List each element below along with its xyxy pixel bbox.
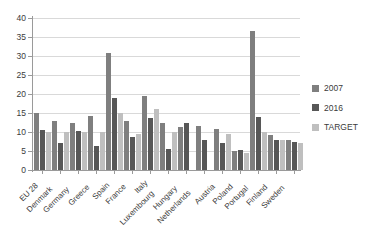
- bar-group: [195, 18, 213, 170]
- y-tick-label: 5: [4, 147, 26, 156]
- bar-group: [249, 18, 267, 170]
- bar: [130, 137, 135, 170]
- bar: [94, 146, 99, 170]
- bar: [160, 123, 165, 171]
- bar: [34, 113, 39, 170]
- bar-group: [213, 18, 231, 170]
- x-axis-tick-labels: EU 28DenmarkGermanyGreeceSpainFranceItal…: [33, 172, 300, 230]
- y-tick-label: 0: [4, 166, 26, 175]
- bar: [268, 135, 273, 170]
- bar: [232, 151, 237, 170]
- y-tick-label: 15: [4, 109, 26, 118]
- bar-group: [177, 18, 195, 170]
- bar: [52, 121, 57, 170]
- bar-group: [231, 18, 249, 170]
- bar: [142, 96, 147, 170]
- y-tick-label: 35: [4, 33, 26, 42]
- bar: [46, 132, 51, 170]
- bar-group: [33, 18, 51, 170]
- bar: [76, 131, 81, 170]
- bar-group: [159, 18, 177, 170]
- bar: [124, 121, 129, 170]
- bar-group: [285, 18, 303, 170]
- y-tick-label: 10: [4, 128, 26, 137]
- bar-group: [51, 18, 69, 170]
- bar-group: [123, 18, 141, 170]
- bar: [154, 109, 159, 170]
- y-tick-mark: [28, 170, 33, 171]
- bar: [286, 140, 291, 170]
- legend-swatch-icon: [312, 85, 319, 92]
- bar: [292, 142, 297, 170]
- x-label-cell: Sweden: [282, 172, 300, 230]
- bar: [112, 98, 117, 170]
- bar: [166, 149, 171, 170]
- legend-swatch-icon: [312, 124, 319, 131]
- bar: [250, 31, 255, 170]
- legend-label: 2016: [324, 104, 343, 113]
- bar-group: [69, 18, 87, 170]
- legend-item[interactable]: TARGET: [312, 123, 358, 132]
- bar: [148, 118, 153, 170]
- legend-label: 2007: [324, 84, 343, 93]
- legend-label: TARGET: [324, 123, 358, 132]
- chart-legend: 20072016TARGET: [312, 84, 358, 132]
- bar-group: [87, 18, 105, 170]
- bar-group: [141, 18, 159, 170]
- bar: [238, 150, 243, 170]
- bar-groups: [33, 18, 300, 170]
- bar: [118, 113, 123, 170]
- bar: [256, 117, 261, 170]
- bar: [202, 140, 207, 170]
- y-tick-label: 40: [4, 14, 26, 23]
- bar: [106, 53, 111, 170]
- y-tick-label: 20: [4, 90, 26, 99]
- y-tick-label: 25: [4, 71, 26, 80]
- bar: [274, 140, 279, 170]
- bar-group: [267, 18, 285, 170]
- bar: [40, 130, 45, 170]
- legend-item[interactable]: 2016: [312, 104, 358, 113]
- bar: [58, 143, 63, 170]
- legend-swatch-icon: [312, 104, 319, 111]
- y-tick-label: 30: [4, 52, 26, 61]
- bar-chart: 0510152025303540 EU 28DenmarkGermanyGree…: [0, 0, 374, 236]
- bar: [196, 126, 201, 170]
- x-label-cell: Greece: [86, 172, 104, 230]
- bar-group: [105, 18, 123, 170]
- legend-item[interactable]: 2007: [312, 84, 358, 93]
